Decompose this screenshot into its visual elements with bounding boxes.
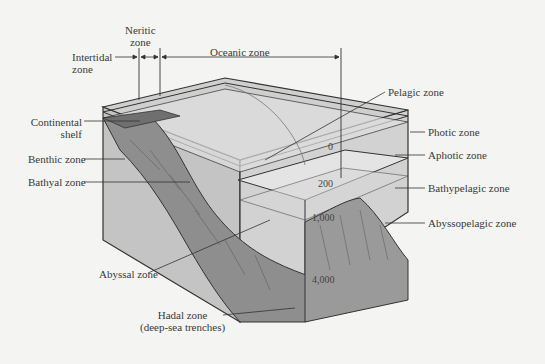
neritic-line1: Neritic — [125, 24, 156, 36]
neritic-zone-label: Neritic zone — [125, 24, 156, 48]
neritic-line2: zone — [125, 36, 156, 48]
bathypelagic-zone-label: Bathypelagic zone — [428, 182, 510, 194]
hadal-line2: (deep-sea trenches) — [140, 321, 225, 333]
continental-shelf-line2: shelf — [20, 128, 82, 140]
aphotic-zone-label: Aphotic zone — [428, 149, 487, 161]
continental-shelf-label: Continental shelf — [20, 116, 82, 140]
intertidal-line2: zone — [72, 63, 112, 75]
intertidal-zone-label: Intertidal zone — [72, 51, 112, 75]
continental-shelf-line1: Continental — [20, 116, 82, 128]
depth-200: 200 — [318, 178, 333, 189]
abyssal-zone-label: Abyssal zone — [99, 268, 158, 280]
hadal-line1: Hadal zone — [140, 309, 225, 321]
benthic-zone-label: Benthic zone — [28, 153, 86, 165]
abyssopelagic-zone-label: Abyssopelagic zone — [428, 217, 516, 229]
depth-1000: 1,000 — [312, 212, 335, 223]
pelagic-zone-label: Pelagic zone — [388, 86, 444, 98]
bathyal-zone-label: Bathyal zone — [28, 176, 86, 188]
hadal-zone-label: Hadal zone (deep-sea trenches) — [140, 309, 225, 333]
depth-4000: 4,000 — [312, 274, 335, 285]
photic-zone-label: Photic zone — [428, 126, 480, 138]
oceanic-zone-label: Oceanic zone — [210, 46, 270, 58]
intertidal-line1: Intertidal — [72, 51, 112, 63]
depth-0: 0 — [328, 141, 333, 152]
